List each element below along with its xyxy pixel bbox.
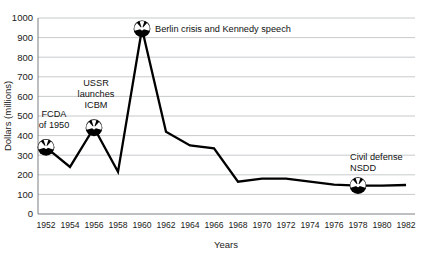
y-axis-title: Dollars (millions) bbox=[2, 81, 13, 151]
y-tick-label: 900 bbox=[17, 32, 33, 43]
radiation-trefoil-icon bbox=[350, 177, 367, 194]
annotation-label: launches bbox=[78, 89, 115, 99]
annotation-label: of 1950 bbox=[39, 120, 70, 130]
x-tick-label: 1982 bbox=[396, 220, 415, 230]
y-tick-label: 200 bbox=[17, 169, 33, 180]
x-tick-label: 1968 bbox=[228, 220, 247, 230]
x-tick-label: 1962 bbox=[156, 220, 175, 230]
radiation-trefoil-icon bbox=[38, 139, 55, 156]
y-tick-label: 800 bbox=[17, 52, 33, 63]
radiation-trefoil-icon bbox=[86, 119, 103, 136]
x-axis-title: Years bbox=[214, 239, 238, 250]
chart-plot-area: 01002003004005006007008009001000 1952195… bbox=[0, 0, 429, 256]
x-tick-label: 1966 bbox=[204, 220, 223, 230]
civil-defense-spending-chart: 01002003004005006007008009001000 1952195… bbox=[0, 0, 429, 256]
annotation-label: Berlin crisis and Kennedy speech bbox=[155, 24, 291, 34]
x-tick-label: 1964 bbox=[180, 220, 199, 230]
y-tick-label: 0 bbox=[28, 208, 33, 219]
x-tick-label: 1980 bbox=[372, 220, 391, 230]
annotation-label: NSDD bbox=[350, 163, 376, 173]
y-tick-label: 500 bbox=[17, 110, 33, 121]
y-tick-label: 600 bbox=[17, 91, 33, 102]
event-annotation-labels: FCDAof 1950USSRlaunchesICBMBerlin crisis… bbox=[39, 24, 403, 172]
x-tick-labels: 1952195419561958196019621964196619681970… bbox=[36, 220, 415, 230]
x-tick-label: 1978 bbox=[348, 220, 367, 230]
annotation-label: FCDA bbox=[41, 109, 67, 119]
y-tick-label: 100 bbox=[17, 189, 33, 200]
x-tick-label: 1958 bbox=[108, 220, 127, 230]
annotation-label: Civil defense bbox=[350, 152, 403, 162]
radiation-trefoil-icon bbox=[134, 20, 151, 37]
x-tick-label: 1970 bbox=[252, 220, 271, 230]
y-tick-label: 400 bbox=[17, 130, 33, 141]
annotation-label: USSR bbox=[83, 78, 109, 88]
x-tick-label: 1954 bbox=[60, 220, 79, 230]
x-tick-label: 1976 bbox=[324, 220, 343, 230]
y-tick-label: 700 bbox=[17, 71, 33, 82]
annotation-label: ICBM bbox=[85, 100, 108, 110]
x-tick-label: 1952 bbox=[36, 220, 55, 230]
x-tick-label: 1974 bbox=[300, 220, 319, 230]
x-tick-label: 1956 bbox=[84, 220, 103, 230]
x-tick-label: 1960 bbox=[132, 220, 151, 230]
x-tick-label: 1972 bbox=[276, 220, 295, 230]
y-tick-labels: 01002003004005006007008009001000 bbox=[12, 12, 33, 219]
y-tick-label: 300 bbox=[17, 150, 33, 161]
y-tick-label: 1000 bbox=[12, 12, 33, 23]
